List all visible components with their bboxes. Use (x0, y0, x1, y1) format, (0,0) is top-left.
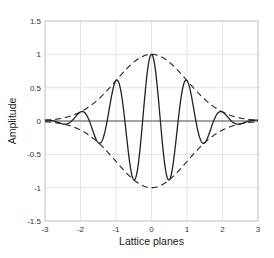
x-tick-label: 3 (256, 225, 261, 234)
x-tick-label: 0 (149, 225, 154, 234)
x-tick-label: 2 (220, 225, 225, 234)
y-tick-label: -1.5 (27, 217, 41, 226)
x-tick-label: -1 (112, 225, 120, 234)
y-tick-label: -0.5 (27, 150, 41, 159)
x-tick-label: 1 (185, 225, 190, 234)
x-tick-label: -3 (41, 225, 49, 234)
y-tick-label: -1 (34, 184, 42, 193)
x-axis-label: Lattice planes (119, 235, 184, 247)
y-tick-label: 0 (37, 117, 42, 126)
y-tick-label: 0.5 (30, 84, 42, 93)
y-tick-label: 1 (37, 50, 42, 59)
y-axis-ticks: -1.5-1-0.500.511.5 (27, 17, 41, 226)
y-axis-label: Amplitude (6, 98, 18, 145)
x-tick-label: -2 (77, 225, 85, 234)
x-axis-ticks: -3-2-10123 (41, 225, 260, 234)
y-tick-label: 1.5 (30, 17, 42, 26)
chart: -3-2-10123 -1.5-1-0.500.511.5 Lattice pl… (0, 0, 274, 258)
